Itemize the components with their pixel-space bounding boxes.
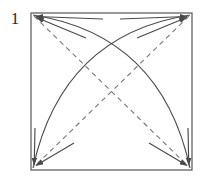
origami-diagram <box>0 0 211 183</box>
arrow-to-bottom-right-vert <box>188 128 189 165</box>
arrow-to-bottom-left-vert <box>34 128 35 165</box>
figure-container: 1 <box>0 0 211 183</box>
